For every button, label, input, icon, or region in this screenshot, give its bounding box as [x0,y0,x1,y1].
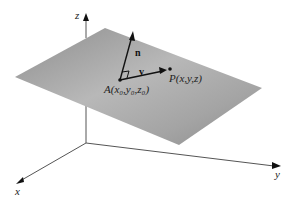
y-axis: y [86,143,281,180]
normal-vector-label: n [135,47,141,58]
point-p-label: P(x,y,z) [168,72,202,85]
plane-diagram: x y z n v [0,0,292,205]
y-axis-label: y [274,168,280,180]
x-axis-label: x [14,185,20,197]
x-axis-arrow-icon [16,177,24,184]
z-axis-arrow-icon [83,13,89,21]
normal-arrow-icon [129,31,135,41]
diagram-canvas: x y z n v [0,0,292,205]
vector-v-label: v [139,66,144,77]
point-a-label: A(x₀,y₀,z₀) [103,83,149,96]
z-axis-label: z [74,9,80,21]
x-axis: x [14,143,86,197]
